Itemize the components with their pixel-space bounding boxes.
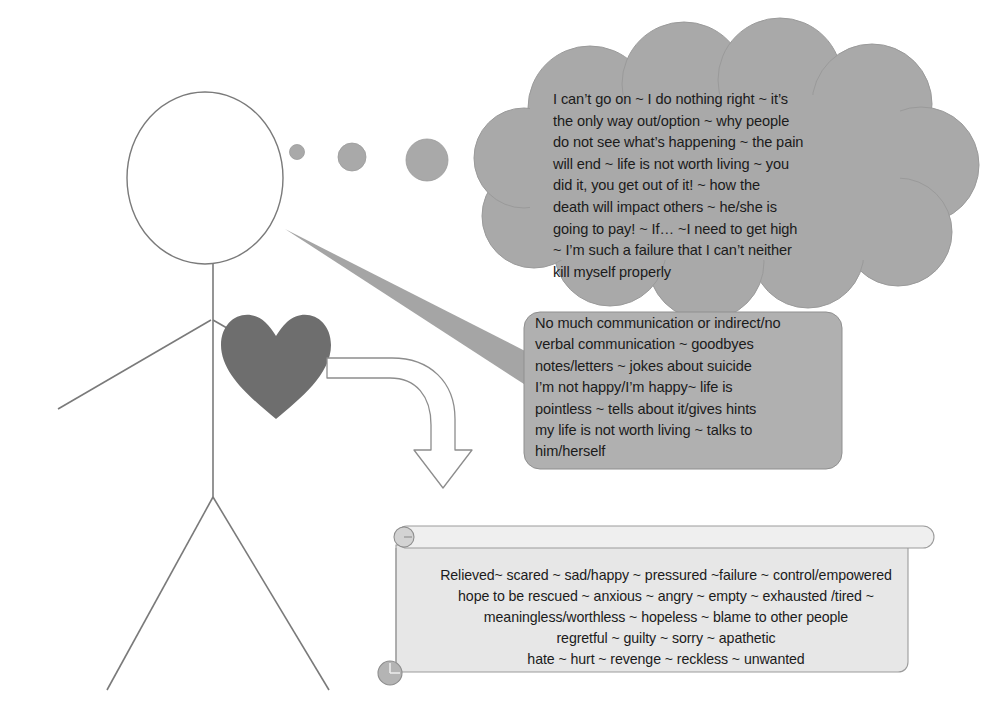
left-arm-line	[58, 320, 211, 409]
heart-icon	[221, 315, 331, 419]
diagram-canvas: I can’t go on ~ I do nothing right ~ it’…	[0, 0, 992, 727]
scroll-banner	[378, 526, 934, 685]
speech-bubble	[524, 312, 842, 469]
thought-cloud	[474, 18, 979, 320]
scroll-top-bar	[396, 526, 934, 548]
thought-dot-small	[290, 145, 305, 160]
diagram-artwork	[0, 0, 992, 727]
head-icon	[127, 92, 283, 264]
curved-down-arrow-icon	[327, 358, 472, 488]
thought-dot-large	[406, 139, 448, 181]
thought-dots	[290, 139, 449, 181]
thought-dot-medium	[338, 143, 366, 171]
right-leg-line	[213, 497, 329, 690]
left-leg-line	[107, 497, 213, 690]
